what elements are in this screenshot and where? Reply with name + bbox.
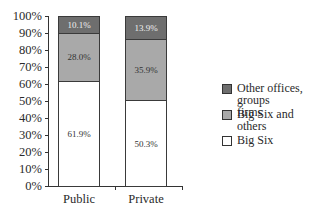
bar-segment: 10.1% bbox=[58, 16, 100, 34]
y-tick-label: 50% bbox=[0, 95, 42, 107]
bar-segment: 13.9% bbox=[125, 16, 167, 41]
y-tick-mark bbox=[45, 50, 49, 51]
stacked-bar-chart: 0%10%20%30%40%50%60%70%80%90%100% 61.9%2… bbox=[0, 0, 317, 214]
legend-swatch-icon bbox=[222, 136, 232, 146]
y-tick-mark bbox=[45, 33, 49, 34]
y-tick-label: 90% bbox=[0, 27, 42, 39]
legend-item: Big Six and others bbox=[222, 108, 317, 132]
legend-swatch-icon bbox=[222, 110, 232, 120]
y-tick-label: 40% bbox=[0, 112, 42, 124]
x-tick-mark bbox=[182, 186, 183, 190]
data-label: 28.0% bbox=[67, 52, 90, 62]
data-label: 50.3% bbox=[134, 139, 157, 149]
y-tick-label: 100% bbox=[0, 10, 42, 22]
x-tick-mark bbox=[115, 186, 116, 190]
data-label: 13.9% bbox=[134, 23, 157, 33]
data-label: 10.1% bbox=[67, 20, 90, 30]
y-tick-label: 70% bbox=[0, 61, 42, 73]
x-tick-label: Private bbox=[116, 192, 176, 207]
legend-label: Big Six bbox=[237, 134, 273, 146]
data-label: 35.9% bbox=[134, 65, 157, 75]
legend-label: Big Six and others bbox=[237, 108, 317, 132]
bar-segment: 50.3% bbox=[125, 100, 167, 187]
x-tick-label: Public bbox=[49, 192, 109, 207]
data-label: 61.9% bbox=[67, 129, 90, 139]
y-tick-mark bbox=[45, 152, 49, 153]
y-tick-mark bbox=[45, 67, 49, 68]
bar-segment: 61.9% bbox=[58, 81, 100, 187]
y-tick-label: 30% bbox=[0, 129, 42, 141]
bar-segment: 35.9% bbox=[125, 39, 167, 101]
y-tick-label: 60% bbox=[0, 78, 42, 90]
legend-item: Big Six bbox=[222, 134, 273, 146]
y-tick-mark bbox=[45, 135, 49, 136]
y-tick-label: 80% bbox=[0, 44, 42, 56]
y-tick-mark bbox=[45, 16, 49, 17]
bar-segment: 28.0% bbox=[58, 33, 100, 82]
y-tick-mark bbox=[45, 169, 49, 170]
y-tick-mark bbox=[45, 101, 49, 102]
y-tick-label: 20% bbox=[0, 146, 42, 158]
y-tick-mark bbox=[45, 84, 49, 85]
y-tick-label: 10% bbox=[0, 163, 42, 175]
y-tick-mark bbox=[45, 118, 49, 119]
y-tick-label: 0% bbox=[0, 180, 42, 192]
y-tick-mark bbox=[45, 186, 49, 187]
legend-swatch-icon bbox=[222, 84, 232, 94]
